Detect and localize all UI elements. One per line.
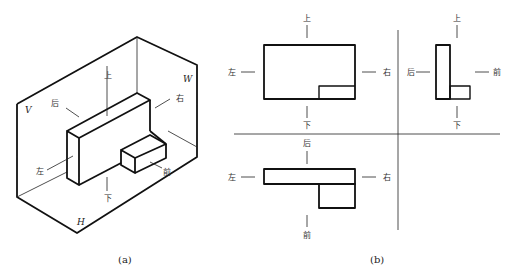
front-view-outline [264, 45, 355, 99]
top-label-top: 后 [303, 138, 311, 148]
leader-right [155, 99, 170, 108]
label-right: 右 [176, 93, 184, 103]
side-view-outline [436, 45, 450, 99]
front-label-bottom: 下 [303, 121, 311, 130]
label-left: 左 [36, 166, 44, 176]
small-block-back-edge [150, 131, 166, 144]
top-label-right: 右 [383, 172, 391, 182]
small-block-side [135, 144, 166, 173]
label-bottom: 下 [104, 194, 112, 203]
block-top-face [67, 93, 150, 138]
label-top: 上 [104, 71, 112, 80]
label-front: 前 [163, 167, 171, 177]
plane-label-h: H [76, 217, 85, 227]
leader-left [47, 156, 73, 170]
side-view: 上 下 后 前 [407, 14, 501, 130]
front-label-top: 上 [303, 14, 311, 23]
figure-b-orthographic: 上 下 左 右 上 下 后 前 后 前 左 [228, 14, 501, 265]
front-view: 上 下 左 右 [228, 14, 391, 130]
top-view-step [319, 184, 355, 208]
figure-a-isometric: 上 下 后 右 左 前 V W H (a) [17, 37, 197, 265]
top-label-left: 左 [228, 172, 236, 182]
front-label-right: 右 [383, 67, 391, 77]
side-label-top: 上 [453, 14, 461, 23]
front-label-left: 左 [228, 67, 236, 77]
side-label-bottom: 下 [453, 121, 461, 130]
side-view-step [450, 86, 470, 99]
side-label-left: 后 [407, 67, 415, 77]
top-view-outline [264, 169, 355, 184]
top-view: 后 前 左 右 [228, 138, 391, 240]
small-block-front-face [121, 150, 135, 173]
front-view-step [319, 86, 355, 99]
caption-a: (a) [118, 254, 132, 265]
label-back: 后 [51, 98, 59, 108]
plane-label-v: V [25, 105, 33, 115]
plane-label-w: W [183, 74, 193, 84]
plane-edge-right-bottom [168, 131, 197, 147]
caption-b: (b) [370, 254, 384, 265]
side-label-right: 前 [493, 67, 501, 77]
diagram-canvas: 上 下 后 右 左 前 V W H (a) 上 下 左 右 [0, 0, 508, 275]
leader-back [66, 108, 79, 117]
top-label-bottom: 前 [303, 230, 311, 240]
block-bottom-edge [79, 163, 121, 185]
